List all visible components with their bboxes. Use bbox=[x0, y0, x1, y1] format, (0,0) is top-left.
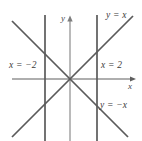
coordinate-plane-svg bbox=[0, 0, 142, 141]
label-x-equals-neg2: x = −2 bbox=[9, 61, 37, 71]
label-y-equals-x: y = x bbox=[106, 11, 127, 21]
coordinate-plane-figure: x = −2 x = 2 y = x y = −x y x bbox=[0, 0, 142, 141]
label-x-equals-2: x = 2 bbox=[101, 61, 122, 71]
label-y-equals-neg-x: y = −x bbox=[100, 101, 127, 111]
x-axis-label: x bbox=[128, 82, 132, 91]
y-axis-label: y bbox=[61, 14, 65, 23]
